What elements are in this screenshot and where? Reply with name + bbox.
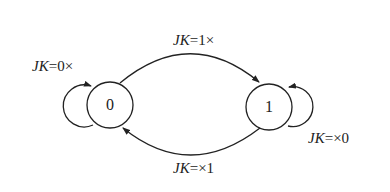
condition: =1× [190, 32, 214, 48]
state-0-label: 0 [100, 97, 120, 113]
var-jk: JK [32, 58, 49, 74]
condition: =0× [49, 58, 73, 74]
var-jk: JK [173, 160, 190, 176]
condition: =×1 [190, 160, 214, 176]
state-1-label: 1 [259, 99, 279, 115]
var-jk: JK [308, 130, 325, 146]
transition-label-1-1: JK=×0 [308, 131, 349, 146]
self-loop-0-arrow [63, 85, 93, 127]
transition-label-1-0: JK=×1 [173, 161, 214, 176]
transition-1-to-0-arrow [123, 128, 260, 155]
transition-label-0-1: JK=1× [173, 33, 214, 48]
condition: =×0 [325, 130, 349, 146]
transition-label-0-0: JK=0× [32, 59, 73, 74]
var-jk: JK [173, 32, 190, 48]
transition-0-to-1-arrow [120, 54, 259, 83]
